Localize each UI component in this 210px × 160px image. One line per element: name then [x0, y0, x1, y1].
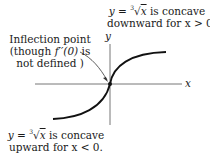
concave-up-annotation: y = 3√x is concave upward for x < 0.: [6, 126, 106, 153]
arrowhead-icon: [103, 77, 108, 82]
x-axis-label: x: [185, 77, 191, 89]
inflection-point-annotation: Inflection point (though f′′(0) is not d…: [4, 33, 96, 69]
inflection-point-dot: [108, 82, 112, 86]
y-axis-label: y: [105, 30, 111, 42]
concave-down-annotation: y = 3√x is concave downward for x > 0.: [107, 2, 207, 29]
